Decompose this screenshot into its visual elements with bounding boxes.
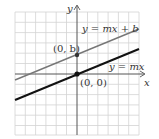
linear-equations-diagram: y x y = mx + b y = mx (0, b) (0, 0)	[0, 0, 159, 139]
line-label-mx: y = mx	[108, 61, 145, 72]
y-axis-label: y	[66, 3, 73, 14]
point-label-origin: (0, 0)	[80, 77, 107, 88]
point-label-0-b: (0, b)	[53, 43, 80, 54]
point-origin	[74, 71, 79, 76]
x-axis-label: x	[144, 77, 150, 88]
line-label-mx-plus-b: y = mx + b	[81, 23, 139, 34]
